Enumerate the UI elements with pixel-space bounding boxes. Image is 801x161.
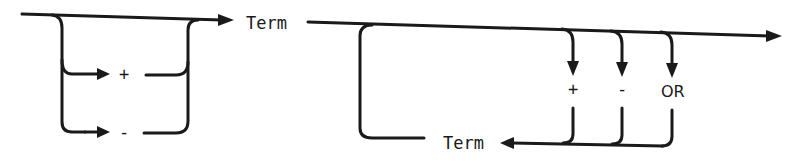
- branch-plus-in: [62, 60, 98, 74]
- loop-left-vertical: [360, 25, 424, 138]
- operator-minus: -: [617, 81, 627, 98]
- left-option-plus: +: [119, 66, 129, 83]
- arrow-down-icon: [666, 63, 678, 78]
- operator-or: OR: [661, 84, 685, 100]
- op-or-drop: [661, 32, 672, 63]
- main-line-right: [308, 22, 770, 36]
- branch-plus-out: [146, 62, 188, 75]
- loop-return-line: [512, 143, 663, 146]
- arrow-right-icon: [766, 30, 782, 42]
- arrow-down-icon: [616, 62, 628, 77]
- op-plus-rise: [563, 108, 573, 143]
- op-minus-rise: [612, 108, 622, 144]
- term-label-loop: Term: [443, 135, 484, 152]
- arrow-right-icon: [97, 68, 110, 80]
- left-option-minus: -: [119, 124, 129, 141]
- arrow-right-icon: [97, 126, 110, 138]
- arrow-down-icon: [567, 61, 579, 76]
- op-minus-drop: [611, 31, 622, 62]
- arrow-left-icon: [500, 137, 514, 149]
- term-label-target: Term: [246, 15, 287, 32]
- operator-plus: +: [568, 81, 578, 98]
- right-operator-section: [308, 22, 782, 149]
- op-plus-drop: [562, 29, 573, 62]
- op-or-rise: [662, 110, 672, 146]
- arrow-right-icon: [218, 14, 234, 26]
